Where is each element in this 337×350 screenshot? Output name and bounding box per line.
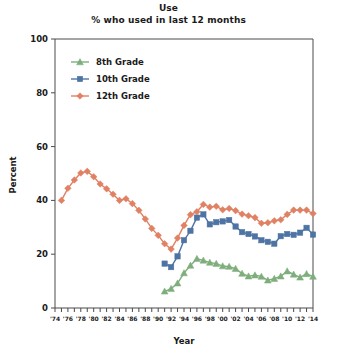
- series-10th-grade: [162, 212, 316, 270]
- data-point-marker: [201, 212, 206, 217]
- data-point-marker: [181, 222, 188, 229]
- data-point-marker: [168, 264, 173, 269]
- chart-legend: 8th Grade10th Grade12th Grade: [71, 57, 150, 101]
- x-tick-label: '76: [63, 315, 73, 322]
- y-tick-label: 80: [36, 88, 48, 98]
- y-tick-label: 0: [42, 303, 48, 313]
- data-point-marker: [220, 219, 225, 224]
- data-point-marker: [252, 234, 257, 239]
- data-point-marker: [278, 233, 283, 238]
- legend-item-label: 12th Grade: [96, 91, 150, 101]
- data-point-marker: [297, 274, 304, 280]
- data-point-marker: [181, 238, 186, 243]
- data-point-marker: [239, 211, 246, 218]
- x-tick-label: '02: [231, 315, 241, 322]
- legend-item-label: 8th Grade: [96, 57, 144, 67]
- data-point-marker: [194, 215, 199, 220]
- data-point-marker: [310, 232, 315, 237]
- x-tick-label: '86: [127, 315, 137, 322]
- data-point-marker: [174, 235, 181, 242]
- data-point-marker: [284, 268, 291, 274]
- data-point-marker: [162, 261, 167, 266]
- data-point-marker: [285, 231, 290, 236]
- data-point-marker: [265, 239, 270, 244]
- data-point-marker: [303, 270, 310, 276]
- chart-container: Use % who used in last 12 months 0204060…: [0, 0, 337, 350]
- data-series-group: [58, 168, 316, 294]
- data-point-marker: [207, 204, 214, 211]
- y-tick-label: 60: [36, 142, 48, 152]
- data-point-marker: [77, 93, 84, 100]
- data-point-marker: [194, 255, 201, 261]
- x-tick-label: '06: [256, 315, 266, 322]
- data-point-marker: [272, 241, 277, 246]
- x-axis-label: Year: [172, 336, 195, 346]
- data-point-marker: [245, 212, 252, 219]
- x-axis-ticks: '74'76'78'80'82'84'86'88'90'92'94'96'98'…: [50, 308, 318, 322]
- x-tick-label: '92: [166, 315, 176, 322]
- legend-item-label: 10th Grade: [96, 74, 150, 84]
- data-point-marker: [58, 197, 65, 204]
- data-point-marker: [219, 207, 226, 214]
- legend-item-8th-grade: 8th Grade: [71, 57, 144, 67]
- x-tick-label: '14: [308, 315, 318, 322]
- series-8th-grade: [161, 255, 316, 294]
- data-point-marker: [213, 203, 220, 210]
- x-tick-label: '94: [179, 315, 189, 322]
- x-tick-label: '90: [153, 315, 163, 322]
- data-point-marker: [175, 254, 180, 259]
- data-point-marker: [232, 207, 239, 214]
- data-point-marker: [239, 229, 244, 234]
- x-tick-label: '80: [89, 315, 99, 322]
- data-point-marker: [233, 224, 238, 229]
- x-tick-label: '82: [102, 315, 112, 322]
- legend-item-10th-grade: 10th Grade: [71, 74, 150, 84]
- data-point-marker: [77, 76, 82, 81]
- y-axis-label: Percent: [8, 156, 18, 193]
- x-tick-label: '88: [140, 315, 150, 322]
- x-tick-label: '74: [50, 315, 60, 322]
- y-tick-label: 40: [36, 195, 48, 205]
- data-point-marker: [187, 211, 194, 218]
- x-tick-label: '98: [205, 315, 215, 322]
- data-point-marker: [303, 207, 310, 214]
- y-axis-ticks: 020406080100: [30, 34, 55, 313]
- data-point-marker: [297, 230, 302, 235]
- data-point-marker: [297, 207, 304, 214]
- legend-item-12th-grade: 12th Grade: [71, 91, 150, 101]
- data-point-marker: [226, 217, 231, 222]
- data-point-marker: [291, 232, 296, 237]
- x-tick-label: '96: [192, 315, 202, 322]
- x-tick-label: '84: [114, 315, 124, 322]
- plot-svg: 020406080100 '74'76'78'80'82'84'86'88'90…: [0, 0, 337, 350]
- data-point-marker: [226, 205, 233, 212]
- data-point-marker: [214, 219, 219, 224]
- data-point-marker: [271, 218, 278, 225]
- x-tick-label: '04: [243, 315, 253, 322]
- data-point-marker: [310, 210, 317, 217]
- data-point-marker: [265, 219, 272, 226]
- y-tick-label: 100: [30, 34, 48, 44]
- x-tick-label: '00: [218, 315, 228, 322]
- x-tick-label: '10: [282, 315, 292, 322]
- data-point-marker: [188, 228, 193, 233]
- x-tick-label: '12: [295, 315, 305, 322]
- data-point-marker: [290, 271, 297, 277]
- data-point-marker: [259, 238, 264, 243]
- data-point-marker: [246, 231, 251, 236]
- data-point-marker: [207, 222, 212, 227]
- y-tick-label: 20: [36, 249, 48, 259]
- x-tick-label: '08: [269, 315, 279, 322]
- x-tick-label: '78: [76, 315, 86, 322]
- data-point-marker: [304, 225, 309, 230]
